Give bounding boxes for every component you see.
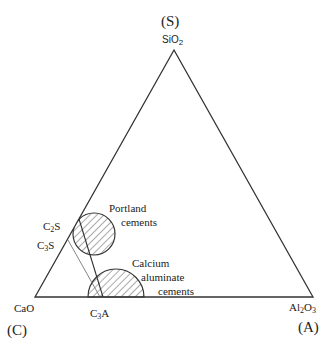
calcium-aluminate-region [88, 269, 144, 297]
label-aluminate-cements: cements [158, 286, 194, 297]
label-c3s: C3S [37, 240, 54, 253]
label-al2o3: Al2O3 [289, 302, 316, 315]
label-portland-cements: cements [121, 217, 157, 228]
ternary-triangle [35, 50, 313, 297]
label-a: (A) [298, 320, 319, 335]
label-c: (C) [7, 323, 27, 338]
label-c2s: C2S [43, 221, 60, 234]
label-sio2: SiO2 [162, 35, 183, 47]
label-aluminate: aluminate [141, 272, 184, 283]
label-calcium: Calcium [132, 258, 169, 269]
ternary-diagram-canvas [0, 0, 330, 353]
label-cao: CaO [14, 303, 34, 314]
label-portland: Portland [109, 203, 146, 214]
label-c3a: C3A [90, 308, 109, 321]
label-s: (S) [161, 14, 179, 29]
